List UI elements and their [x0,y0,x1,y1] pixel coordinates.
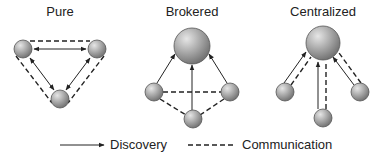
pure-topology [14,40,106,108]
brokered-node-right [221,83,239,101]
legend-discovery-label: Discovery [110,137,167,152]
pure-node-bottom [51,90,69,108]
centralized-node-left [276,83,294,101]
broker-node [174,28,210,64]
pure-node-right [88,40,106,58]
centralized-node-bottom [314,109,332,127]
central-server-node [306,26,340,60]
centralized-node-right [351,83,369,101]
brokered-node-bottom [184,110,202,128]
legend-communication-label: Communication [242,137,332,152]
pure-node-left [14,40,32,58]
brokered-topology [145,28,239,128]
centralized-topology [276,26,369,127]
brokered-node-left [145,83,163,101]
